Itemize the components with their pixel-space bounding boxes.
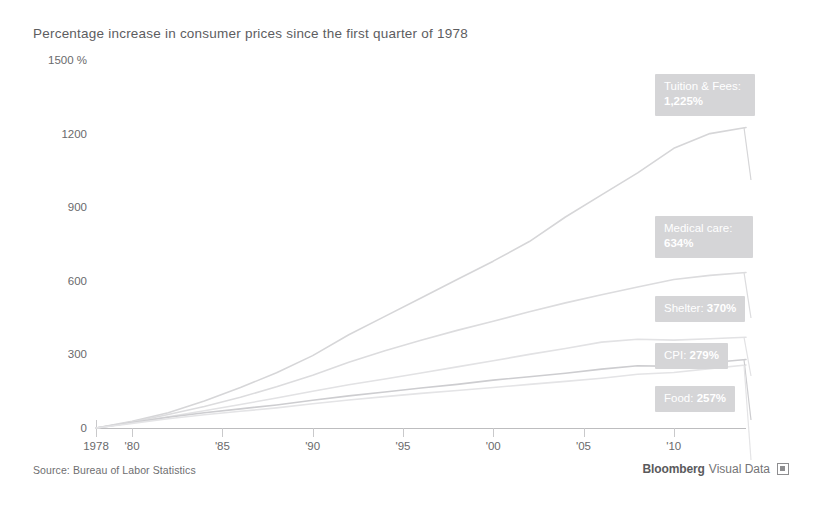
- y-axis-tick-0: 0: [81, 422, 87, 434]
- callout-cpi-value: 279%: [690, 349, 719, 361]
- callout-shelter-value: 370%: [707, 302, 736, 314]
- callout-cpi-label: CPI:: [664, 349, 686, 361]
- x-axis-tick-1978: 1978: [83, 440, 109, 452]
- y-axis-tick-300: 300: [68, 348, 87, 360]
- series-line-tuition-fees: [96, 127, 746, 428]
- callout-leader-line: [744, 272, 751, 318]
- x-axis-tick-1990: '90: [305, 440, 320, 452]
- callout-tuition-label: Tuition & Fees:: [664, 79, 746, 94]
- y-axis-tick-1200: 1200: [61, 128, 87, 140]
- chart-figure: Percentage increase in consumer prices s…: [0, 0, 817, 512]
- x-axis-tick-2000: '00: [486, 440, 501, 452]
- series-lines: [96, 60, 746, 432]
- y-axis-tick-600: 600: [68, 275, 87, 287]
- plot-area: 1500 %12009006003000 1978'80'85'90'95'00…: [96, 60, 746, 432]
- callout-shelter: Shelter: 370%: [655, 296, 745, 322]
- x-axis-tick-1985: '85: [215, 440, 230, 452]
- brand-visual-data-label: Visual Data: [709, 462, 770, 476]
- callout-food-label: Food:: [664, 392, 693, 404]
- callout-leader-line: [744, 127, 751, 180]
- chart-title: Percentage increase in consumer prices s…: [33, 26, 468, 41]
- series-line-food: [96, 365, 746, 428]
- x-axis-tick-2005: '05: [576, 440, 591, 452]
- footer-source-text: Source: Bureau of Labor Statistics: [33, 464, 196, 476]
- x-axis-tick-1995: '95: [395, 440, 410, 452]
- callout-tuition-value: 1,225%: [664, 94, 746, 109]
- x-axis-tick-1980: '80: [125, 440, 140, 452]
- callout-medical-care: Medical care: 634%: [655, 216, 753, 258]
- callout-medical-label: Medical care:: [664, 221, 744, 236]
- callout-medical-value: 634%: [664, 236, 744, 251]
- footer-brand: Bloomberg Visual Data: [642, 462, 789, 476]
- y-axis-tick-1500: 1500 %: [48, 54, 87, 66]
- x-axis-tick-2010: '10: [666, 440, 681, 452]
- callout-shelter-label: Shelter:: [664, 302, 704, 314]
- bloomberg-terminal-icon: [777, 463, 789, 475]
- y-axis-tick-900: 900: [68, 201, 87, 213]
- brand-bloomberg-wordmark: Bloomberg: [642, 462, 704, 476]
- callout-tuition-and-fees: Tuition & Fees: 1,225%: [655, 74, 755, 116]
- callout-food-value: 257%: [697, 392, 726, 404]
- callout-food: Food: 257%: [655, 386, 735, 412]
- callout-cpi: CPI: 279%: [655, 343, 728, 369]
